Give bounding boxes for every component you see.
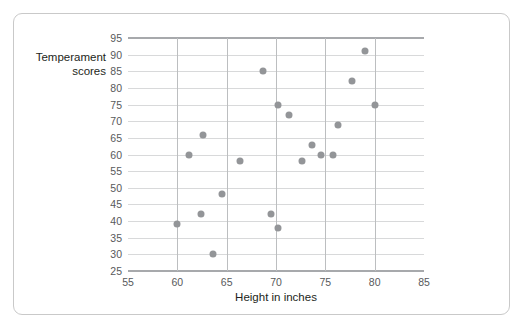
data-point: [186, 151, 193, 158]
data-point: [285, 111, 292, 118]
data-point: [268, 211, 275, 218]
y-axis-tick-label: 55: [96, 165, 122, 177]
y-axis-tick-label: 50: [96, 182, 122, 194]
scatter-chart: Temperament scores Height in inches 2530…: [0, 0, 525, 330]
data-point: [274, 224, 281, 231]
gridline-vertical: [375, 38, 376, 271]
data-point: [335, 121, 342, 128]
x-axis-tick-label: 80: [360, 276, 390, 288]
gridline-vertical: [276, 38, 277, 271]
gridline-vertical: [177, 38, 178, 271]
y-axis-tick-label: 75: [96, 99, 122, 111]
data-point: [237, 158, 244, 165]
x-axis-tick-label: 70: [261, 276, 291, 288]
data-point: [371, 101, 378, 108]
y-axis-tick-label: 40: [96, 215, 122, 227]
y-axis-tick-label: 90: [96, 49, 122, 61]
data-point: [361, 48, 368, 55]
data-point: [199, 131, 206, 138]
x-axis-tick-label: 85: [409, 276, 439, 288]
data-point: [174, 221, 181, 228]
y-axis-tick-label: 35: [96, 232, 122, 244]
data-point: [318, 151, 325, 158]
y-axis-tick-label: 30: [96, 248, 122, 260]
gridline-vertical: [325, 38, 326, 271]
data-point: [198, 211, 205, 218]
y-axis-tick-label: 95: [96, 32, 122, 44]
data-point: [209, 251, 216, 258]
data-point: [330, 151, 337, 158]
y-axis-tick-label: 70: [96, 115, 122, 127]
y-axis-tick-label: 45: [96, 198, 122, 210]
data-point: [298, 158, 305, 165]
data-point: [260, 68, 267, 75]
x-axis-tick-label: 60: [162, 276, 192, 288]
data-point: [308, 141, 315, 148]
y-axis-tick-label: 65: [96, 132, 122, 144]
x-axis-tick-label: 75: [310, 276, 340, 288]
data-point: [348, 78, 355, 85]
data-point: [274, 101, 281, 108]
y-axis-tick-label: 80: [96, 82, 122, 94]
y-axis-title: Temperament scores: [20, 50, 106, 78]
data-point: [218, 191, 225, 198]
y-axis-tick-label: 85: [96, 65, 122, 77]
x-axis-tick-label: 55: [113, 276, 143, 288]
gridline-vertical: [227, 38, 228, 271]
y-axis-tick-label: 60: [96, 149, 122, 161]
x-axis-title: Height in inches: [128, 291, 424, 303]
x-axis-tick-label: 65: [212, 276, 242, 288]
